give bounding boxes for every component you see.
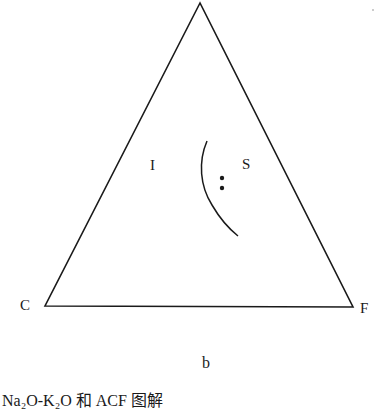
scan-speck <box>372 9 374 11</box>
figure-caption: Na₂O-K₂O 和 ACF 图解 <box>2 393 163 409</box>
subfigure-label: b <box>202 355 210 371</box>
vertex-label-c: C <box>20 298 30 313</box>
triangle-outline <box>45 3 353 307</box>
data-point <box>220 176 224 180</box>
data-point <box>220 186 224 190</box>
boundary-curve <box>201 141 238 236</box>
region-label-i: I <box>150 158 155 173</box>
vertex-label-f: F <box>360 301 368 316</box>
region-label-s: S <box>242 157 250 172</box>
